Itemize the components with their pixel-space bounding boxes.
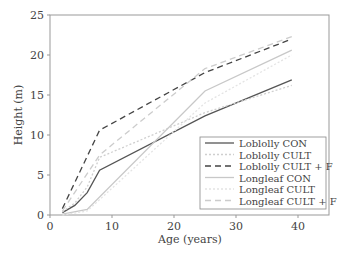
x-axis-ticks: 010203040: [47, 215, 306, 233]
line-chart: 0510152025 010203040 Age (years) Height …: [0, 0, 345, 259]
y-tick-label: 25: [30, 9, 44, 22]
y-axis-label: Height (m): [12, 85, 25, 146]
y-tick-label: 5: [37, 169, 44, 182]
legend-label: Loblolly CON: [239, 138, 307, 149]
legend-label: Longleaf CULT: [239, 184, 315, 195]
y-tick-label: 10: [30, 129, 44, 142]
x-tick-label: 20: [167, 220, 181, 233]
x-tick-label: 0: [47, 220, 54, 233]
x-axis-label: Age (years): [157, 233, 222, 246]
y-tick-label: 15: [30, 89, 44, 102]
legend-label: Loblolly CULT + F: [239, 161, 333, 172]
y-tick-label: 0: [37, 209, 44, 222]
x-tick-label: 30: [229, 220, 243, 233]
x-tick-label: 40: [291, 220, 305, 233]
y-tick-label: 20: [30, 49, 44, 62]
legend-label: Loblolly CULT: [239, 150, 311, 161]
legend-label: Longleaf CON: [239, 173, 311, 184]
x-tick-label: 10: [105, 220, 119, 233]
y-axis-ticks: 0510152025: [30, 9, 50, 222]
legend: Loblolly CONLoblolly CULTLoblolly CULT +…: [200, 137, 337, 209]
legend-label: Longleaf CULT + F: [239, 196, 337, 207]
